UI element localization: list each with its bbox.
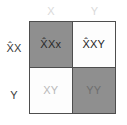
column-header-y: Y: [73, 3, 116, 19]
genotype-label: X̂Xx: [40, 38, 61, 50]
genotype-label: X̂XY: [82, 38, 105, 50]
genotype-label: XY: [43, 84, 58, 96]
row-header-x-hat-x: X̂X: [0, 41, 28, 55]
row-header-y: Y: [0, 88, 28, 102]
punnett-square-figure: X Y X̂X Y X̂Xx X̂XY XY YY: [0, 0, 127, 125]
punnett-cell-bottom-right: YY: [73, 68, 116, 114]
column-header-x: X: [29, 3, 73, 19]
punnett-cell-top-left: X̂Xx: [30, 22, 73, 68]
punnett-cell-bottom-left: XY: [30, 68, 73, 114]
punnett-grid: X̂Xx X̂XY XY YY: [29, 21, 116, 114]
punnett-cell-top-right: X̂XY: [73, 22, 116, 68]
genotype-label: YY: [86, 84, 101, 96]
